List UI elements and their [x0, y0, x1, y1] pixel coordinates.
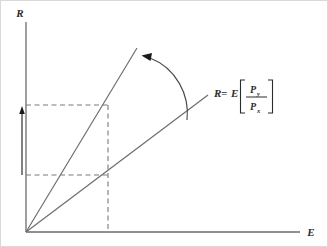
equation-equals: = — [221, 87, 227, 99]
figure-container: R E R = E P y P x — [0, 0, 328, 247]
y-axis-label: R — [15, 7, 23, 19]
equation-operator: E — [230, 87, 238, 99]
equation-denominator: P — [250, 101, 257, 112]
x-axis-label: E — [306, 226, 314, 238]
figure-canvas: R E R = E P y P x — [0, 0, 328, 247]
equation-numerator: P — [250, 84, 257, 95]
figure-border — [1, 1, 328, 247]
equation-numerator-subscript: y — [256, 90, 260, 97]
